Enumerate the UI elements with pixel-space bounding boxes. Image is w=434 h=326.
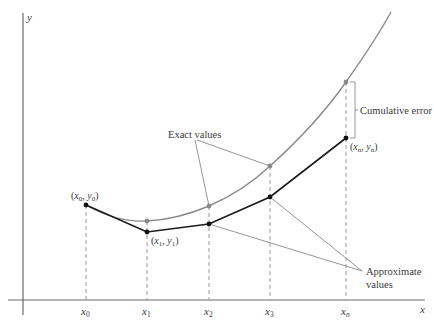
leader-exact-x3 — [197, 140, 270, 166]
y-axis-label: y — [26, 11, 32, 23]
exact-values-label: Exact values — [168, 129, 221, 140]
tick-label-x2: x2 — [203, 305, 213, 319]
euler-method-diagram: y x (x0, y0) (x1 — [0, 0, 434, 326]
exact-points — [145, 80, 349, 224]
tick-label-x1: x1 — [141, 305, 151, 319]
point-label-xn-yn: (xn, yn) — [350, 141, 378, 154]
exact-point-n — [344, 80, 349, 85]
x-tick-labels: x0 x1 x2 x3 xn — [80, 305, 350, 319]
cumulative-error-label: Cumulative error — [360, 105, 433, 116]
cumulative-error-bracket — [350, 82, 358, 138]
tick-label-x3: x3 — [264, 305, 274, 319]
point-label-x0-y0: (x0, y0) — [71, 190, 99, 203]
approx-point-1 — [145, 230, 150, 235]
dashed-guides — [86, 82, 346, 300]
approximate-values-label-line1: Approximate — [366, 266, 422, 277]
point-label-x1-y1: (x1, y1) — [151, 235, 179, 248]
initial-point — [84, 203, 89, 208]
approximate-polyline — [86, 138, 346, 232]
approximate-values-leaders — [209, 197, 362, 271]
approx-point-3 — [268, 195, 273, 200]
leader-approx-x3 — [270, 197, 362, 271]
leader-approx-x2 — [209, 224, 362, 271]
exact-point-2 — [207, 204, 212, 209]
exact-values-leaders — [195, 140, 270, 206]
exact-point-1 — [145, 219, 150, 224]
x-axis-label: x — [419, 303, 425, 315]
exact-point-3 — [268, 164, 273, 169]
tick-label-x0: x0 — [80, 305, 90, 319]
approx-point-2 — [207, 222, 212, 227]
leader-exact-x2 — [195, 140, 209, 206]
approx-point-n — [344, 136, 349, 141]
tick-label-xn: xn — [340, 305, 350, 319]
exact-solution-curve — [86, 12, 391, 221]
approximate-values-label-line2: values — [366, 279, 393, 290]
